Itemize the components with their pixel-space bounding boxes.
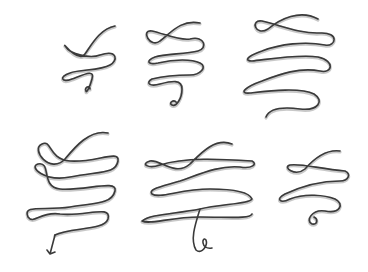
flourish-triple-loop xyxy=(147,22,204,106)
flourish-heart-loops xyxy=(27,132,118,254)
flourish-small-double-loop xyxy=(63,26,116,93)
flourish-wave-triple xyxy=(142,142,254,251)
flourish-small-double-loop-right xyxy=(280,151,349,225)
flourish-ornate-triple-loop xyxy=(244,15,334,118)
flourish-canvas xyxy=(0,0,368,272)
